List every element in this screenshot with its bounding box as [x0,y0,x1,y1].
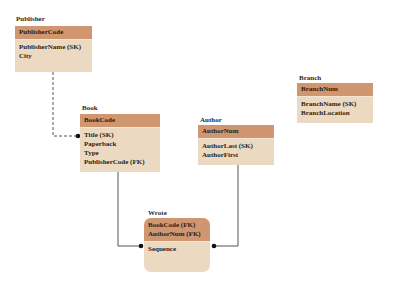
wrote-entity: BookCode (FK) AuthorNum (FK) Sequence [144,218,210,272]
branch-primary-key: BranchNum [297,83,373,97]
author-entity: AuthorNum AuthorLast (SK) AuthorFirst [198,125,274,165]
book-attribute: Type [84,149,156,158]
author-wrote-end-dot [212,244,217,249]
author-entity-title: Author [200,116,222,124]
publisher-attribute: PublisherName (SK) [19,43,88,52]
author-attribute: AuthorLast (SK) [202,142,270,151]
author-attribute: AuthorFirst [202,151,270,160]
author-wrote-relationship [214,165,238,246]
author-primary-key: AuthorNum [198,125,274,139]
book-attribute: PublisherCode (FK) [84,158,156,167]
book-attribute: Paperback [84,140,156,149]
branch-attribute: BranchName (SK) [301,100,369,109]
branch-entity: BranchNum BranchName (SK) BranchLocation [297,83,373,123]
book-wrote-relationship [118,172,141,246]
book-entity: BookCode Title (SK) Paperback Type Publi… [80,114,160,172]
wrote-primary-keys: BookCode (FK) AuthorNum (FK) [144,218,210,242]
publisher-book-relationship [53,72,77,136]
publisher-attribute: City [19,52,88,61]
publisher-primary-key: PublisherCode [15,26,92,40]
book-primary-key: BookCode [80,114,160,128]
book-wrote-end-dot [139,244,144,249]
branch-entity-title: Branch [299,74,321,82]
publisher-entity: PublisherCode PublisherName (SK) City [15,26,92,72]
wrote-attribute: Sequence [148,245,206,254]
branch-attribute: BranchLocation [301,109,369,118]
wrote-primary-key: BookCode (FK) [148,221,206,230]
wrote-entity-title: Wrote [148,209,167,217]
book-entity-title: Book [82,104,98,112]
wrote-primary-key: AuthorNum (FK) [148,230,206,239]
book-attribute: Title (SK) [84,131,156,140]
publisher-entity-title: Publisher [16,15,45,23]
